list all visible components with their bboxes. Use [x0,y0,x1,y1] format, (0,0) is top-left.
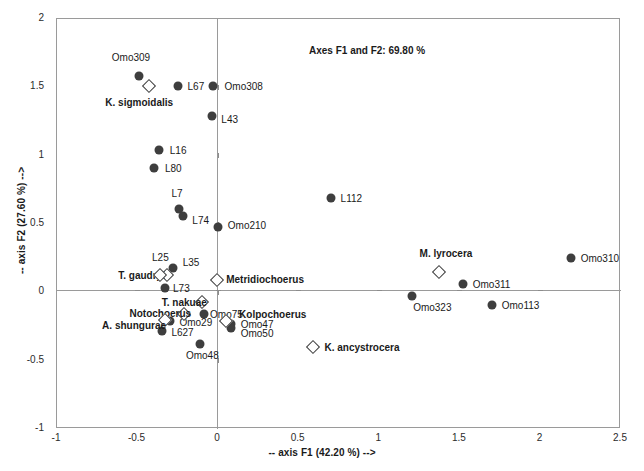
point-label: L67 [188,81,205,92]
point-label: Omo48 [186,350,219,361]
data-point-l73[interactable] [160,284,169,293]
data-point-k-sigmoidalis[interactable] [142,79,156,93]
data-point-omo311[interactable] [459,280,468,289]
data-point-omo210[interactable] [214,222,223,231]
x-axis-tick-label: -0.5 [117,432,157,443]
scatter-plot-area: Axes F1 and F2: 69.80 % Omo309L67Omo308L… [56,18,620,428]
y-axis-tick-label: 2 [10,12,44,23]
point-label: L74 [192,215,209,226]
data-point-l112[interactable] [326,194,335,203]
x-tick-mark [135,290,140,291]
x-axis-tick-label: -1 [36,432,76,443]
y-tick-mark [218,153,219,158]
scan-header-artifact [246,0,396,6]
x-tick-mark [457,290,462,291]
point-label: L7 [171,188,182,199]
x-tick-mark [377,290,382,291]
point-label: A. shungurae [102,320,166,331]
data-point-omo309[interactable] [135,72,144,81]
data-point-l80[interactable] [149,163,158,172]
y-tick-mark [218,290,219,295]
point-label: Omo113 [502,300,540,311]
point-label: Omo310 [581,253,619,264]
point-label: L43 [221,114,238,125]
data-point-omo48[interactable] [196,340,205,349]
y-axis-title: -- axis F2 (27.60 %) --> [16,121,27,321]
data-point-l16[interactable] [154,146,163,155]
data-point-metridiochoerus[interactable] [209,273,223,287]
y-tick-mark [218,85,219,90]
x-axis-title: -- axis F1 (42.20 %) --> [0,447,644,458]
point-label: K. sigmoidalis [105,97,173,108]
data-point-l43[interactable] [207,112,216,121]
point-label: Omo323 [413,302,451,313]
y-axis-tick-label: 1.5 [10,80,44,91]
x-tick-mark [538,290,543,291]
point-label: L80 [165,163,182,174]
point-label: L35 [183,257,200,268]
point-label: Omo210 [228,220,266,231]
point-label: L25 [152,252,169,263]
x-axis-tick-label: 0.5 [278,432,318,443]
data-point-m-lyrocera[interactable] [432,265,446,279]
point-label: Omo50 [241,328,274,339]
x-axis-tick-label: 1.5 [439,432,479,443]
point-label: Omo311 [473,279,511,290]
y-axis-tick-label: -0.5 [10,354,44,365]
point-label: Kolpochoerus [239,309,306,320]
data-point-omo113[interactable] [488,300,497,309]
horizontal-zero-axis [57,290,621,291]
point-label: L112 [341,193,363,204]
chart-title: Axes F1 and F2: 69.80 % [309,45,425,56]
point-label: Omo308 [225,81,263,92]
x-axis-tick-label: 2 [519,432,559,443]
point-label: Metridiochoerus [226,274,304,285]
point-label: L73 [173,283,190,294]
point-label: M. lyrocera [420,248,473,259]
data-point-k-ancystrocera[interactable] [306,340,320,354]
y-axis-tick-label: -1 [10,422,44,433]
data-point-omo323[interactable] [407,292,416,301]
point-label: L627 [171,327,193,338]
x-axis-tick-label: 2.5 [600,432,640,443]
point-label: Omo309 [112,52,150,63]
point-label: L16 [170,145,187,156]
data-point-omo310[interactable] [567,254,576,263]
x-tick-mark [296,290,301,291]
point-label: K. ancystrocera [324,342,399,353]
x-axis-tick-label: 1 [358,432,398,443]
data-point-l67[interactable] [173,81,182,90]
data-point-l74[interactable] [178,211,187,220]
x-axis-tick-label: 0 [197,432,237,443]
data-point-omo308[interactable] [209,81,218,90]
